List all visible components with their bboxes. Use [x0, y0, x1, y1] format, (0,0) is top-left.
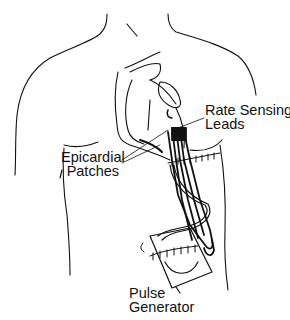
torso-outline	[15, 14, 256, 290]
pulse-generator-device	[150, 228, 212, 293]
label-epicardial-line2: Patches	[61, 164, 125, 178]
label-rate-sensing-line1: Rate Sensing	[205, 103, 290, 117]
lead-bundle	[168, 128, 214, 255]
label-epicardial-line1: Epicardial	[61, 150, 125, 164]
leader-lines	[122, 118, 204, 163]
label-pulse-line2: Generator	[129, 300, 194, 314]
label-rate-sensing-leads: Rate Sensing Leads	[205, 103, 290, 131]
diagram-canvas: Rate Sensing Leads Epicardial Patches Pu…	[0, 0, 290, 320]
label-pulse-generator: Pulse Generator	[129, 286, 194, 314]
torso-illustration	[0, 0, 290, 320]
label-pulse-line1: Pulse	[129, 286, 194, 300]
label-epicardial-patches: Epicardial Patches	[61, 150, 125, 178]
label-rate-sensing-line2: Leads	[205, 117, 290, 131]
